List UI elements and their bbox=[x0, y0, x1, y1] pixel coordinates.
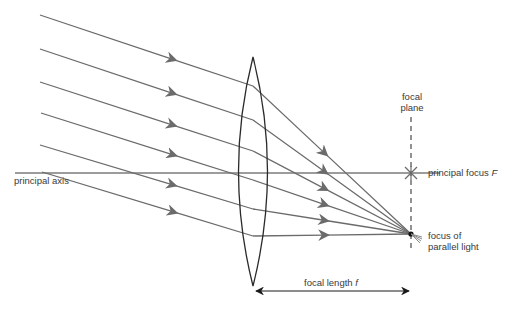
focal-length-label: focal length f bbox=[304, 277, 358, 288]
refracted-ray bbox=[253, 120, 411, 234]
focus-of-parallel-light-label: focus of parallel light bbox=[428, 230, 479, 252]
incident-ray bbox=[40, 82, 253, 151]
refracted-ray bbox=[253, 234, 411, 236]
refracted-ray bbox=[253, 180, 411, 234]
incident-ray bbox=[40, 145, 253, 209]
refracted-ray bbox=[253, 86, 411, 234]
light-rays bbox=[40, 15, 411, 236]
diverging-ray-stubs bbox=[411, 234, 422, 243]
incident-ray bbox=[42, 172, 253, 236]
incident-ray bbox=[41, 113, 253, 180]
focus-text-1: focus of bbox=[428, 230, 479, 241]
focal-plane-text-1: focal bbox=[392, 91, 432, 102]
convex-lens bbox=[239, 57, 268, 286]
principal-axis-text: principal axis bbox=[14, 175, 69, 186]
focal-length-text: focal length bbox=[304, 277, 353, 288]
incident-ray bbox=[40, 49, 253, 120]
incident-ray bbox=[40, 15, 253, 86]
principal-focus-text: principal focus bbox=[428, 167, 489, 178]
focus-text-2: parallel light bbox=[428, 241, 479, 252]
focal-length-symbol: f bbox=[355, 277, 358, 288]
focal-plane-text-2: plane bbox=[392, 102, 432, 113]
focal-plane-label: focal plane bbox=[392, 91, 432, 113]
principal-focus-symbol: F bbox=[491, 167, 497, 178]
lens-diagram bbox=[0, 0, 515, 309]
principal-focus-label: principal focus F bbox=[428, 167, 497, 178]
principal-axis-label: principal axis bbox=[14, 175, 69, 186]
